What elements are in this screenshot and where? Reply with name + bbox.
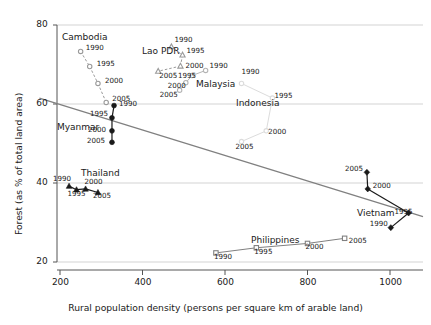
y-tick-label: 60 — [36, 98, 47, 108]
data-point-marker[interactable] — [239, 81, 243, 85]
point-year-label: 2005 — [159, 71, 177, 80]
point-year-label: 1995 — [187, 46, 205, 55]
data-point-marker[interactable] — [203, 68, 207, 72]
series-label-thailand: Thailand — [81, 168, 120, 178]
data-point-marker[interactable] — [110, 128, 115, 133]
series-label-malaysia: Malaysia — [196, 79, 235, 89]
series-connector — [90, 66, 98, 83]
x-tick-label: 200 — [52, 277, 69, 287]
y-axis-title: Forest (as % of total land area) — [13, 93, 24, 235]
series-label-lao-pdr: Lao PDR — [142, 46, 180, 56]
series-connector — [98, 83, 106, 102]
point-year-label: 1990 — [214, 252, 232, 261]
point-year-label: 2000 — [268, 127, 286, 136]
point-year-label: 2005 — [93, 191, 111, 200]
data-point-marker[interactable] — [180, 52, 185, 57]
point-year-label: 1995 — [395, 207, 413, 216]
x-tick-label: 600 — [217, 277, 234, 287]
data-point-marker[interactable] — [364, 169, 370, 175]
data-point-marker[interactable] — [112, 103, 117, 108]
series-label-indonesia: Indonesia — [236, 98, 280, 108]
point-year-label: 2005 — [349, 236, 367, 245]
data-point-marker[interactable] — [104, 100, 108, 104]
series-label-philippines: Philippines — [251, 235, 300, 245]
point-year-label: 1990 — [174, 35, 192, 44]
series-connector — [242, 83, 273, 98]
data-point-marker[interactable] — [178, 63, 183, 68]
scatter-chart: 2040608020040060080010001990199520002005… — [0, 0, 431, 325]
point-year-label: 1990 — [53, 174, 71, 183]
series-label-vietnam: Vietnam — [357, 208, 395, 218]
y-tick-label: 40 — [36, 177, 47, 187]
point-year-label: 2005 — [236, 142, 254, 151]
x-tick-label: 1000 — [379, 277, 402, 287]
data-point-marker[interactable] — [88, 64, 92, 68]
point-year-label: 1995 — [97, 59, 115, 68]
point-year-label: 1990 — [210, 61, 228, 70]
point-year-label: 2005 — [160, 90, 178, 99]
point-year-label: 2000 — [373, 181, 391, 190]
data-point-marker[interactable] — [66, 183, 72, 188]
y-tick-label: 20 — [36, 256, 47, 266]
series-label-myanmar: Myanmar — [57, 122, 99, 132]
data-point-marker[interactable] — [110, 140, 115, 145]
point-year-label: 2000 — [168, 81, 186, 90]
x-axis-title: Rural population density (persons per sq… — [0, 302, 431, 313]
data-point-marker[interactable] — [342, 236, 346, 240]
point-year-label: 1990 — [242, 67, 260, 76]
point-year-label: 2000 — [85, 177, 103, 186]
data-point-marker[interactable] — [365, 186, 371, 192]
point-year-label: 2000 — [185, 61, 203, 70]
point-year-label: 1990 — [119, 99, 137, 108]
y-tick-label: 80 — [36, 19, 47, 29]
series-connector — [242, 131, 267, 142]
point-year-label: 1995 — [68, 189, 86, 198]
point-year-label: 1990 — [370, 219, 388, 228]
point-year-label: 2000 — [105, 76, 123, 85]
point-year-label: 1995 — [254, 247, 272, 256]
data-point-marker[interactable] — [110, 115, 115, 120]
data-point-marker[interactable] — [96, 81, 100, 85]
data-point-marker[interactable] — [78, 49, 82, 53]
x-tick-label: 800 — [299, 277, 316, 287]
series-label-cambodia: Cambodia — [62, 32, 108, 42]
point-year-label: 1990 — [86, 43, 104, 52]
point-year-label: 2005 — [87, 136, 105, 145]
point-year-label: 1995 — [178, 71, 196, 80]
point-year-label: 2005 — [345, 164, 363, 173]
point-year-label: 2000 — [306, 242, 324, 251]
point-year-label: 1995 — [90, 109, 108, 118]
x-tick-label: 400 — [134, 277, 151, 287]
